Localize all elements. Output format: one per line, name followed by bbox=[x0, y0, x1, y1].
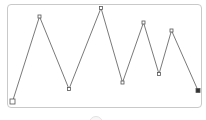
vertex-handle[interactable] bbox=[170, 29, 173, 32]
vertex-handle[interactable] bbox=[68, 88, 71, 91]
vertex-handle[interactable] bbox=[100, 7, 103, 10]
vertex-handle-start[interactable] bbox=[10, 99, 15, 104]
polyline-plot[interactable] bbox=[0, 0, 206, 120]
vertex-handle[interactable] bbox=[142, 21, 145, 24]
vertex-handle-end[interactable] bbox=[196, 89, 200, 93]
vertex-handle[interactable] bbox=[38, 15, 41, 18]
vertex-handle[interactable] bbox=[121, 81, 124, 84]
polyline-path bbox=[13, 8, 199, 102]
vertex-handle[interactable] bbox=[158, 73, 161, 76]
